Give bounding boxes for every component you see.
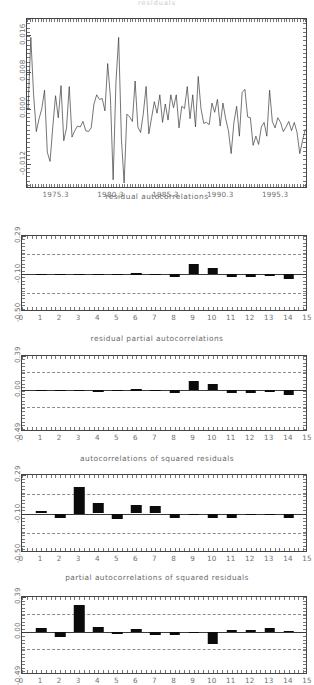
bar-partial-autocorrelations-squared-residuals-lag9[interactable] xyxy=(188,632,198,634)
chart-caption-residual-series: residual autocorrelations xyxy=(0,192,314,201)
xtick-label-residual-partial-autocorrelations-7: 7 xyxy=(152,433,157,442)
tick-row-top-residual-partial-autocorrelations xyxy=(22,356,306,359)
bar-residual-autocorrelations-lag5[interactable] xyxy=(112,274,122,276)
bar-residual-autocorrelations-lag10[interactable] xyxy=(207,268,217,274)
bar-residual-partial-autocorrelations-lag12[interactable] xyxy=(246,390,256,394)
bar-residual-autocorrelations-lag11[interactable] xyxy=(226,274,236,277)
bar-autocorrelations-squared-residuals-lag4[interactable] xyxy=(93,503,103,513)
xtick-label-autocorrelations-squared-residuals-4: 4 xyxy=(95,554,100,563)
xtick-label-autocorrelations-squared-residuals-11: 11 xyxy=(226,554,236,563)
bar-autocorrelations-squared-residuals-lag1[interactable] xyxy=(36,511,46,514)
bar-residual-autocorrelations-lag4[interactable] xyxy=(93,274,103,276)
xtick-label-partial-autocorrelations-squared-residuals-3: 3 xyxy=(76,676,81,685)
confidence-line-residual-autocorrelations-0 xyxy=(22,254,306,255)
bar-residual-autocorrelations-lag8[interactable] xyxy=(169,274,179,277)
bar-residual-partial-autocorrelations-lag4[interactable] xyxy=(93,390,103,392)
xtick-label-residual-partial-autocorrelations-1: 1 xyxy=(38,433,43,442)
bar-partial-autocorrelations-squared-residuals-lag2[interactable] xyxy=(55,632,65,638)
xtick-label-residual-autocorrelations-0: 0 xyxy=(19,313,24,322)
tick-row-bottom-autocorrelations-squared-residuals xyxy=(22,548,306,551)
xtick-label-partial-autocorrelations-squared-residuals-1: 1 xyxy=(38,676,43,685)
xtick-label-residual-partial-autocorrelations-8: 8 xyxy=(171,433,176,442)
bar-residual-partial-autocorrelations-lag1[interactable] xyxy=(36,390,46,392)
bar-partial-autocorrelations-squared-residuals-lag4[interactable] xyxy=(93,627,103,632)
xtick-label-residual-partial-autocorrelations-12: 12 xyxy=(245,433,255,442)
bar-partial-autocorrelations-squared-residuals-lag11[interactable] xyxy=(226,630,236,632)
bar-autocorrelations-squared-residuals-lag12[interactable] xyxy=(246,514,256,516)
bar-autocorrelations-squared-residuals-lag6[interactable] xyxy=(131,505,141,514)
bar-residual-autocorrelations-lag14[interactable] xyxy=(284,274,294,279)
bar-partial-autocorrelations-squared-residuals-lag5[interactable] xyxy=(112,632,122,635)
xtick-label-partial-autocorrelations-squared-residuals-11: 11 xyxy=(226,676,236,685)
bar-residual-partial-autocorrelations-lag9[interactable] xyxy=(188,381,198,390)
xtick-label-residual-partial-autocorrelations-10: 10 xyxy=(207,433,217,442)
xtick-label-autocorrelations-squared-residuals-12: 12 xyxy=(245,554,255,563)
bar-autocorrelations-squared-residuals-lag3[interactable] xyxy=(74,487,84,514)
xtick-label-residual-series-3: 1990.3 xyxy=(207,190,233,199)
bar-partial-autocorrelations-squared-residuals-lag12[interactable] xyxy=(246,630,256,632)
bar-partial-autocorrelations-squared-residuals-lag3[interactable] xyxy=(74,605,84,632)
bar-residual-partial-autocorrelations-lag10[interactable] xyxy=(207,384,217,389)
bar-residual-partial-autocorrelations-lag3[interactable] xyxy=(74,390,84,392)
bar-residual-autocorrelations-lag7[interactable] xyxy=(150,274,160,276)
bar-residual-partial-autocorrelations-lag7[interactable] xyxy=(150,390,160,392)
plot-area-residual-series xyxy=(26,18,307,188)
confidence-line-autocorrelations-squared-residuals-0 xyxy=(22,494,306,495)
plot-area-residual-autocorrelations xyxy=(21,235,307,311)
xtick-label-autocorrelations-squared-residuals-7: 7 xyxy=(152,554,157,563)
bar-autocorrelations-squared-residuals-lag10[interactable] xyxy=(207,514,217,519)
bar-residual-partial-autocorrelations-lag5[interactable] xyxy=(112,390,122,392)
bar-residual-autocorrelations-lag1[interactable] xyxy=(36,274,46,276)
xtick-label-residual-autocorrelations-10: 10 xyxy=(207,313,217,322)
ytick-mark-residual-autocorrelations-0 xyxy=(22,236,26,237)
bar-residual-autocorrelations-lag13[interactable] xyxy=(265,274,275,276)
xtick-label-partial-autocorrelations-squared-residuals-10: 10 xyxy=(207,676,217,685)
xtick-label-residual-partial-autocorrelations-15: 15 xyxy=(302,433,312,442)
bar-residual-autocorrelations-lag2[interactable] xyxy=(55,274,65,276)
xtick-label-residual-partial-autocorrelations-6: 6 xyxy=(133,433,138,442)
bar-autocorrelations-squared-residuals-lag13[interactable] xyxy=(265,514,275,516)
xtick-label-autocorrelations-squared-residuals-9: 9 xyxy=(190,554,195,563)
bar-residual-partial-autocorrelations-lag13[interactable] xyxy=(265,390,275,392)
bar-autocorrelations-squared-residuals-lag11[interactable] xyxy=(226,514,236,518)
xtick-label-residual-autocorrelations-7: 7 xyxy=(152,313,157,322)
xtick-label-autocorrelations-squared-residuals-3: 3 xyxy=(76,554,81,563)
xtick-label-autocorrelations-squared-residuals-2: 2 xyxy=(57,554,62,563)
bar-residual-autocorrelations-lag12[interactable] xyxy=(246,274,256,277)
xtick-label-partial-autocorrelations-squared-residuals-0: 0 xyxy=(19,676,24,685)
bar-partial-autocorrelations-squared-residuals-lag1[interactable] xyxy=(36,628,46,631)
xtick-label-residual-partial-autocorrelations-13: 13 xyxy=(264,433,274,442)
xtick-label-autocorrelations-squared-residuals-8: 8 xyxy=(171,554,176,563)
bar-residual-partial-autocorrelations-lag11[interactable] xyxy=(226,390,236,393)
bar-residual-autocorrelations-lag3[interactable] xyxy=(74,274,84,276)
bar-partial-autocorrelations-squared-residuals-lag13[interactable] xyxy=(265,628,275,632)
bar-partial-autocorrelations-squared-residuals-lag7[interactable] xyxy=(150,632,160,635)
bar-residual-partial-autocorrelations-lag8[interactable] xyxy=(169,390,179,393)
bar-autocorrelations-squared-residuals-lag14[interactable] xyxy=(284,514,294,519)
xtick-label-partial-autocorrelations-squared-residuals-4: 4 xyxy=(95,676,100,685)
xtick-label-partial-autocorrelations-squared-residuals-12: 12 xyxy=(245,676,255,685)
xtick-label-residual-autocorrelations-6: 6 xyxy=(133,313,138,322)
figure-top-title: residuals xyxy=(0,0,314,7)
xtick-label-residual-partial-autocorrelations-5: 5 xyxy=(114,433,119,442)
bar-residual-partial-autocorrelations-lag14[interactable] xyxy=(284,390,294,395)
bar-autocorrelations-squared-residuals-lag5[interactable] xyxy=(112,514,122,519)
xtick-label-residual-autocorrelations-15: 15 xyxy=(302,313,312,322)
bar-residual-autocorrelations-lag6[interactable] xyxy=(131,273,141,275)
bar-autocorrelations-squared-residuals-lag8[interactable] xyxy=(169,514,179,519)
bar-partial-autocorrelations-squared-residuals-lag6[interactable] xyxy=(131,629,141,632)
bar-partial-autocorrelations-squared-residuals-lag10[interactable] xyxy=(207,632,217,644)
xtick-label-autocorrelations-squared-residuals-1: 1 xyxy=(38,554,43,563)
bar-residual-autocorrelations-lag9[interactable] xyxy=(188,264,198,273)
bar-residual-partial-autocorrelations-lag6[interactable] xyxy=(131,389,141,391)
bar-partial-autocorrelations-squared-residuals-lag14[interactable] xyxy=(284,631,294,633)
bar-autocorrelations-squared-residuals-lag2[interactable] xyxy=(55,514,65,518)
bar-autocorrelations-squared-residuals-lag9[interactable] xyxy=(188,514,198,516)
bar-autocorrelations-squared-residuals-lag7[interactable] xyxy=(150,506,160,514)
bar-residual-partial-autocorrelations-lag2[interactable] xyxy=(55,390,65,392)
tick-row-top-residual-autocorrelations xyxy=(22,236,306,239)
xtick-label-residual-partial-autocorrelations-4: 4 xyxy=(95,433,100,442)
xtick-label-partial-autocorrelations-squared-residuals-15: 15 xyxy=(302,676,312,685)
bar-partial-autocorrelations-squared-residuals-lag8[interactable] xyxy=(169,632,179,635)
